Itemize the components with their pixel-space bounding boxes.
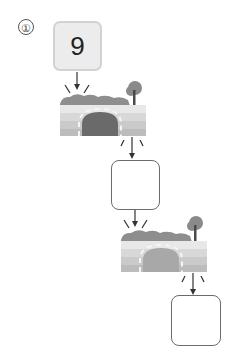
arrow-out-tunnel-1 <box>121 137 143 159</box>
answer-box-2[interactable] <box>171 295 221 346</box>
answer-box-1[interactable] <box>111 160 160 210</box>
arrow-out-tunnel-2 <box>182 273 204 295</box>
tunnel-1 <box>60 81 146 136</box>
arrow-into-tunnel-1 <box>65 72 89 93</box>
arrow-into-tunnel-2 <box>124 210 147 228</box>
